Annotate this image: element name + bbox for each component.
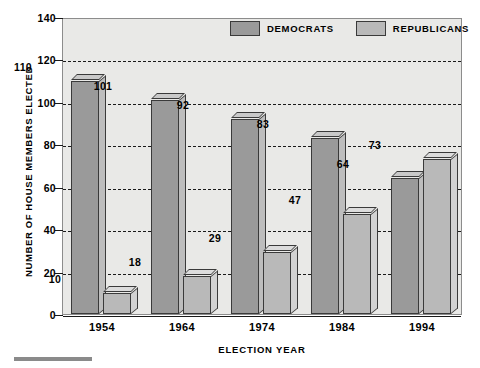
bar-democrats-1994 bbox=[391, 178, 419, 314]
y-tick-label-80: 80 bbox=[16, 139, 56, 151]
x-tick-label-1984: 1984 bbox=[297, 321, 387, 333]
x-tick-label-1974: 1974 bbox=[217, 321, 307, 333]
bar-republicans-1974 bbox=[263, 252, 291, 314]
bar-value-democrats-1964: 101 bbox=[83, 80, 123, 92]
y-tick-label-100: 100 bbox=[16, 97, 56, 109]
gridline-0 bbox=[63, 316, 461, 317]
bar-democrats-1974 bbox=[231, 119, 259, 314]
bar-side bbox=[371, 208, 378, 314]
chart-legend: DEMOCRATS REPUBLICANS bbox=[230, 21, 469, 36]
bar-republicans-1994 bbox=[423, 159, 451, 314]
bar-side bbox=[451, 153, 458, 314]
bar-group-1974 bbox=[231, 17, 291, 314]
plot-area bbox=[62, 18, 462, 315]
legend-swatch-republicans bbox=[356, 21, 386, 36]
bar-face bbox=[151, 100, 179, 314]
bar-top bbox=[183, 269, 217, 275]
bar-democrats-1954 bbox=[71, 81, 99, 314]
x-tick-label-1964: 1964 bbox=[137, 321, 227, 333]
bar-republicans-1954 bbox=[103, 293, 131, 314]
bar-value-democrats-1954: 110 bbox=[3, 61, 43, 73]
bar-side bbox=[99, 75, 106, 314]
bar-democrats-1964 bbox=[151, 100, 179, 314]
y-tick-label-40: 40 bbox=[16, 224, 56, 236]
legend-label-republicans: REPUBLICANS bbox=[393, 23, 469, 34]
y-tick-mark-100 bbox=[55, 103, 63, 104]
bar-top bbox=[311, 131, 345, 137]
x-tick-label-1994: 1994 bbox=[377, 321, 467, 333]
bar-group-1994 bbox=[391, 17, 451, 314]
bar-republicans-1984 bbox=[343, 214, 371, 314]
y-tick-label-140: 140 bbox=[16, 12, 56, 24]
x-axis-title: ELECTION YEAR bbox=[62, 344, 462, 355]
y-tick-mark-60 bbox=[55, 188, 63, 189]
bar-republicans-1964 bbox=[183, 276, 211, 314]
y-tick-label-0: 0 bbox=[16, 309, 56, 321]
bar-side bbox=[131, 287, 138, 314]
bar-value-democrats-1974: 92 bbox=[163, 99, 203, 111]
bar-value-republicans-1994: 73 bbox=[355, 139, 395, 151]
bar-value-republicans-1984: 47 bbox=[275, 194, 315, 206]
x-tick-label-1954: 1954 bbox=[57, 321, 147, 333]
bar-value-republicans-1964: 18 bbox=[115, 256, 155, 268]
y-tick-mark-140 bbox=[55, 18, 63, 19]
bar-value-democrats-1984: 83 bbox=[243, 118, 283, 130]
legend-item-democrats: DEMOCRATS bbox=[230, 21, 334, 36]
bar-group-1964 bbox=[151, 17, 211, 314]
y-tick-mark-80 bbox=[55, 145, 63, 146]
bar-value-democrats-1994: 64 bbox=[323, 158, 363, 170]
legend-label-democrats: DEMOCRATS bbox=[267, 23, 334, 34]
y-tick-label-60: 60 bbox=[16, 182, 56, 194]
bar-side bbox=[291, 247, 298, 314]
legend-item-republicans: REPUBLICANS bbox=[356, 21, 469, 36]
bar-chart-figure: NUMBER OF HOUSE MEMBERS ELECTED DEMOCRAT… bbox=[0, 0, 480, 368]
y-tick-mark-120 bbox=[55, 60, 63, 61]
bar-face bbox=[263, 252, 291, 314]
bar-face bbox=[391, 178, 419, 314]
bar-face bbox=[423, 159, 451, 314]
bar-face bbox=[183, 276, 211, 314]
bar-top bbox=[103, 286, 137, 292]
legend-swatch-democrats bbox=[230, 21, 260, 36]
bar-value-republicans-1974: 29 bbox=[195, 232, 235, 244]
bar-group-1954 bbox=[71, 17, 131, 314]
bar-face bbox=[343, 214, 371, 314]
bar-value-republicans-1954: 10 bbox=[35, 273, 75, 285]
y-tick-mark-40 bbox=[55, 230, 63, 231]
footer-rule bbox=[14, 357, 92, 361]
bar-face bbox=[103, 293, 131, 314]
bar-face bbox=[231, 119, 259, 314]
bar-side bbox=[211, 270, 218, 314]
y-tick-mark-0 bbox=[55, 315, 63, 316]
bar-face bbox=[71, 81, 99, 314]
